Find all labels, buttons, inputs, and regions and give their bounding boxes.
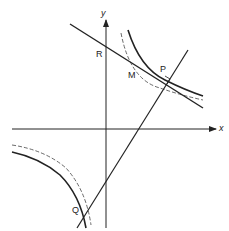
- hyperbola-dashed-lower: [12, 145, 91, 225]
- x-axis-label: x: [219, 123, 224, 133]
- point-label-R: R: [96, 49, 103, 59]
- point-label-Q: Q: [72, 205, 79, 215]
- tangent-line: [70, 24, 203, 108]
- y-axis-label: y: [101, 8, 106, 18]
- diagram-canvas: [0, 0, 229, 231]
- diagram: y x R M P Q: [0, 0, 229, 231]
- point-label-P: P: [160, 64, 166, 74]
- point-label-M: M: [128, 70, 136, 80]
- hyperbola-solid-lower: [12, 152, 86, 228]
